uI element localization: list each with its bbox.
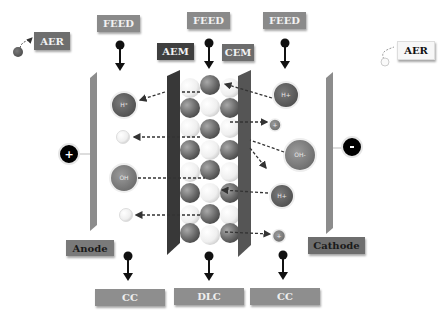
- feed-label-left: FEED: [97, 15, 140, 32]
- feed-arrow-left: [115, 41, 125, 72]
- feed-label-right: FEED: [263, 12, 306, 29]
- aer-right-sphere: [381, 47, 394, 66]
- ion-small-white-left-2: [120, 209, 133, 222]
- negative-terminal-icon: [342, 137, 362, 157]
- ion-h-plus-right-1: H+: [273, 82, 299, 108]
- positive-terminal-icon: +: [59, 144, 79, 164]
- aer-left-sphere: [13, 38, 32, 57]
- aer-label-left: AER: [34, 32, 70, 50]
- aer-label-right: AER: [397, 41, 435, 60]
- cathode-label: Cathode: [308, 237, 365, 254]
- svg-text:H⁺: H⁺: [120, 101, 128, 108]
- feed-label-center: FEED: [187, 12, 230, 29]
- dlc-sphere-column: [180, 75, 240, 245]
- svg-text:+: +: [64, 148, 73, 161]
- feed-arrow-center: [204, 39, 214, 70]
- ion-h-plus-left: H⁺: [111, 92, 137, 118]
- anode-label: Anode: [66, 240, 114, 256]
- anode-electrode: [90, 72, 97, 231]
- output-arrow-left: [123, 252, 133, 282]
- ion-oh-left: OH: [110, 164, 138, 192]
- ion-small-plus-right-1: +: [269, 119, 281, 131]
- ion-oh-minus-right: OH-: [284, 139, 316, 171]
- cathode-electrode: [326, 72, 333, 234]
- output-label-cc-left: CC: [95, 289, 165, 306]
- ion-small-plus-right-2: +: [273, 230, 286, 243]
- output-arrow-center: [204, 252, 214, 282]
- cem-membrane: [238, 70, 251, 257]
- cem-label: CEM: [222, 44, 254, 61]
- svg-text:H+: H+: [281, 91, 291, 98]
- svg-text:+: +: [276, 232, 281, 239]
- output-arrow-right: [278, 251, 288, 281]
- svg-text:+: +: [272, 121, 277, 128]
- aem-membrane: [167, 70, 180, 255]
- output-label-cc-right: CC: [250, 288, 320, 305]
- aem-label: AEM: [157, 43, 194, 60]
- ion-h-plus-right-2: H+: [270, 184, 294, 208]
- svg-text:OH: OH: [119, 174, 128, 181]
- feed-arrow-right: [280, 39, 290, 70]
- svg-text:OH-: OH-: [294, 151, 305, 158]
- svg-text:H+: H+: [277, 192, 287, 199]
- ion-small-white-left-1: [117, 131, 130, 144]
- output-label-dlc: DLC: [174, 288, 244, 305]
